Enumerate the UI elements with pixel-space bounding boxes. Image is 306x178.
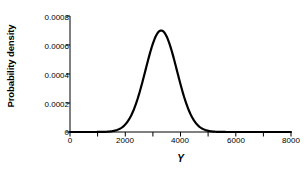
y-tick-marks bbox=[66, 16, 70, 132]
probability-density-chart: Probability density 0.0008 0.0006 0.0004… bbox=[0, 0, 306, 178]
density-curve bbox=[70, 31, 291, 133]
plot-area bbox=[0, 0, 306, 178]
